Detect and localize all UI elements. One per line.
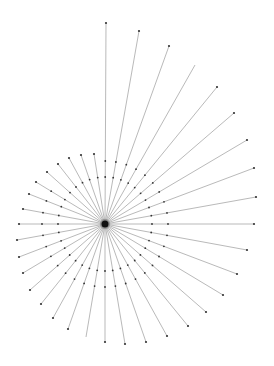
leaf-node [28,193,30,195]
middle-node [135,168,137,170]
inner-node [145,199,147,201]
inner-node [127,264,129,266]
inner-node [96,269,98,271]
inner-node [144,247,146,249]
inner-node [120,268,122,270]
inner-node [140,192,142,194]
spoke-edge [105,87,217,224]
inner-node [81,264,83,266]
spoke-edge [105,23,106,224]
inner-node [150,215,152,217]
spoke-edge [105,224,237,274]
middle-node [167,223,169,225]
leaf-node [246,249,248,251]
leaf-node [168,45,170,47]
inner-node [112,270,114,272]
inner-node [148,240,150,242]
inner-node [151,223,153,225]
inner-node [60,206,62,208]
inner-node [148,207,150,209]
leaf-node [16,239,18,241]
middle-node [42,234,44,236]
middle-node [115,161,117,163]
inner-node [57,223,59,225]
inner-node [120,179,122,181]
inner-node [97,177,99,179]
spoke-edge [105,113,234,224]
spoke-edge [105,168,254,224]
middle-node [65,272,67,274]
leaf-node [40,303,42,305]
leaf-node [236,273,238,275]
spoke-edge [105,65,195,224]
middle-node [144,174,146,176]
radial-graph-canvas [0,0,274,366]
spoke-edge [105,46,169,224]
middle-node [74,278,76,280]
middle-node [125,164,127,166]
middle-node [152,265,154,267]
middle-node [144,272,146,274]
leaf-node [253,223,255,225]
inner-node [134,187,136,189]
spoke-edge [105,224,188,326]
middle-node [104,160,106,162]
middle-node [135,278,137,280]
spoke-edge [81,155,105,224]
inner-node [58,215,60,217]
middle-node [152,182,154,184]
inner-node [82,182,84,184]
leaf-node [67,328,69,330]
leaf-node [57,163,59,165]
middle-node [94,285,96,287]
inner-node [69,192,71,194]
inner-node [104,176,106,178]
inner-node [75,260,77,262]
leaf-node [18,256,20,258]
spoke-edge [105,31,139,224]
inner-node [69,254,71,256]
inner-node [89,267,91,269]
inner-node [127,182,129,184]
leaf-node [46,171,48,173]
leaf-node [104,341,106,343]
leaf-node [205,311,207,313]
inner-node [140,254,142,256]
leaf-node [22,208,24,210]
inner-node [112,177,114,179]
inner-node [150,232,152,234]
middle-node [50,190,52,192]
leaf-node [138,30,140,32]
inner-node [134,260,136,262]
leaf-node [246,139,248,141]
leaf-node [18,223,20,225]
inner-node [60,240,62,242]
middle-node [41,223,43,225]
leaf-node [105,22,107,24]
leaf-node [22,272,24,274]
leaf-node [124,343,126,345]
middle-node [163,245,165,247]
leaf-node [93,153,95,155]
inner-node [64,247,66,249]
leaf-node [253,167,255,169]
inner-node [58,232,60,234]
spoke-nodes [16,22,257,345]
leaf-node [68,157,70,159]
middle-node [104,286,106,288]
middle-node [46,200,48,202]
leaf-node [233,112,235,114]
leaf-node [52,317,54,319]
middle-node [42,212,44,214]
leaf-node [29,289,31,291]
middle-node [166,234,168,236]
middle-node [163,201,165,203]
inner-node [75,186,77,188]
spoke-edge [68,224,105,329]
middle-node [125,283,127,285]
middle-node [57,265,59,267]
leaf-node [166,335,168,337]
spoke-edges [17,23,256,344]
leaf-node [255,196,257,198]
spoke-edge [30,224,105,290]
